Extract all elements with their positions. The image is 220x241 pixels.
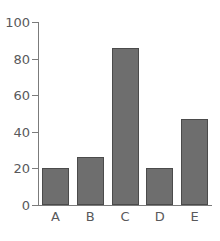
y-axis-tick-label: 20: [0, 162, 30, 175]
bar: [181, 119, 208, 205]
y-axis-tick-label: 100: [0, 16, 30, 29]
x-axis-tick-label: A: [38, 210, 73, 223]
x-axis-tick-label: E: [177, 210, 212, 223]
bar: [77, 157, 104, 205]
bar-series: [38, 22, 212, 205]
y-axis-tick-label: 0: [0, 199, 30, 212]
bar-chart: 020406080100 ABCDE: [0, 0, 220, 241]
x-axis-tick-label: B: [73, 210, 108, 223]
x-axis-tick-label: D: [142, 210, 177, 223]
x-axis-tick-label: C: [108, 210, 143, 223]
y-axis-tick-label: 60: [0, 89, 30, 102]
bar: [42, 168, 69, 205]
y-axis-tick: [32, 205, 38, 206]
y-axis-tick-label: 40: [0, 126, 30, 139]
y-axis-tick-label: 80: [0, 53, 30, 66]
bar: [146, 168, 173, 205]
bar: [112, 48, 139, 205]
x-axis-line: [38, 205, 212, 206]
